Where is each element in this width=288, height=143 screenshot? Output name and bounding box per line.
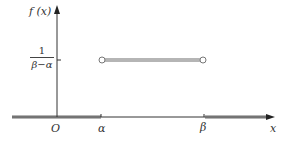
y-axis-arrow-icon: [54, 5, 60, 14]
open-endpoint-right-icon: [200, 57, 206, 63]
alpha-label: α: [98, 123, 105, 134]
level-numerator: 1: [30, 46, 54, 56]
origin-label: O: [51, 123, 60, 134]
x-axis-label: x: [270, 123, 276, 134]
level-label: 1 β−α: [30, 46, 54, 70]
beta-label: β: [200, 122, 206, 133]
uniform-density-diagram: f (x) 1 β−α O α β x: [0, 0, 288, 143]
fraction-bar: [30, 57, 54, 58]
diagram-canvas: [0, 0, 288, 143]
x-axis-arrow-icon: [266, 114, 275, 120]
level-denominator: β−α: [30, 60, 54, 70]
y-axis-label: f (x): [29, 6, 51, 17]
open-endpoint-left-icon: [99, 57, 105, 63]
density-segment: [102, 58, 203, 62]
